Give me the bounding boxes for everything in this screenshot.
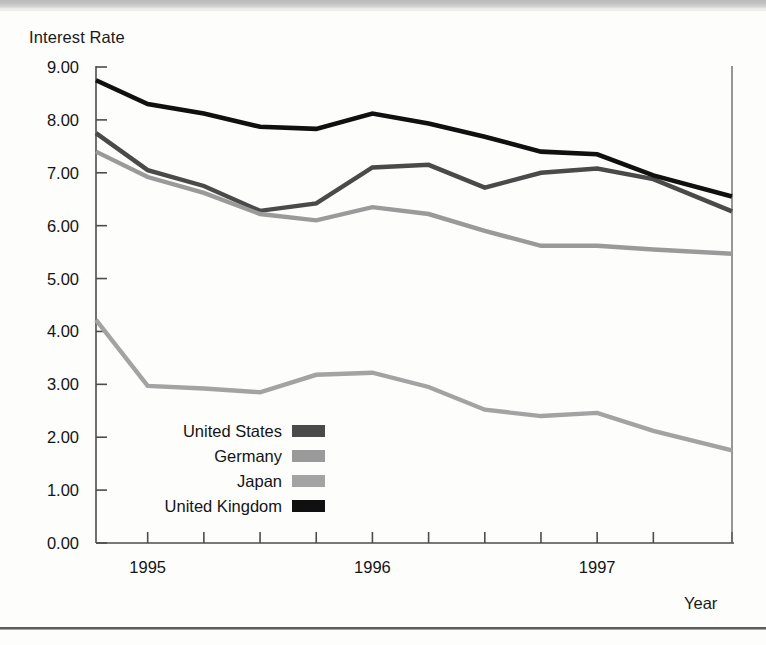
x-tick-label: 1997 [579, 558, 616, 576]
y-tick-label: 1.00 [47, 481, 79, 499]
y-tick-label: 4.00 [47, 322, 79, 340]
y-tick-label: 7.00 [47, 164, 79, 182]
legend-item-swatch [292, 450, 325, 462]
legend-item-label: Germany [214, 447, 283, 465]
legend: United StatesGermanyJapanUnited Kingdom [165, 422, 325, 515]
y-tick-label: 0.00 [47, 534, 79, 552]
y-tick-label: 2.00 [47, 428, 79, 446]
series-line [96, 80, 732, 196]
x-tick-label: 1996 [354, 558, 391, 576]
x-axis-tick-group: 199519961997 [129, 532, 732, 576]
legend-item-swatch [292, 425, 325, 437]
chart-figure: Interest Rate Year 0.001.002.003.004.005… [0, 0, 766, 645]
legend-item-label: United Kingdom [165, 497, 282, 515]
legend-item-label: United States [183, 422, 282, 440]
y-tick-label: 9.00 [47, 58, 79, 76]
legend-item-swatch [292, 475, 325, 487]
axis-lines-group [96, 66, 734, 543]
series-line [96, 133, 732, 211]
chart-plot-svg: 0.001.002.003.004.005.006.007.008.009.00… [0, 0, 766, 645]
y-tick-label: 8.00 [47, 111, 79, 129]
legend-item-swatch [292, 500, 325, 512]
y-tick-label: 6.00 [47, 217, 79, 235]
legend-item-label: Japan [237, 472, 282, 490]
y-tick-label: 5.00 [47, 270, 79, 288]
x-tick-label: 1995 [129, 558, 166, 576]
y-tick-label: 3.00 [47, 375, 79, 393]
data-series-group [96, 80, 732, 450]
footer-rule-shadow [0, 629, 766, 630]
